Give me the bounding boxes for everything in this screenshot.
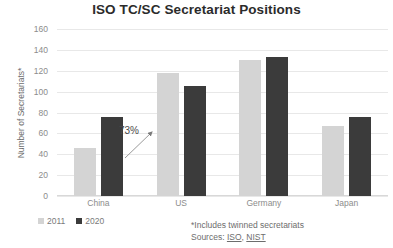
y-axis-tick-label: 20 [39,170,48,180]
y-axis-tick-label: 100 [34,87,48,97]
bar [184,86,206,196]
footnote-sources: Sources: ISO, NIST [191,231,304,243]
bar [349,117,371,196]
legend-item[interactable]: 2011 [38,216,65,226]
y-axis-tick-label: 140 [34,45,48,55]
legend-swatch [38,218,44,224]
bar [74,148,96,196]
bar-chart: ISO TC/SC Secretariat Positions Number o… [0,0,393,248]
x-axis-category-label: US [140,198,223,212]
x-axis-category-labels: ChinaUSGermanyJapan [57,198,388,212]
bar-group [223,29,306,196]
bar [239,60,261,196]
y-axis-tick-label: 80 [39,108,48,118]
bar-group [140,29,223,196]
chart-footnotes: *Includes twinned secretariats Sources: … [191,219,304,243]
x-axis-category-label: Japan [305,198,388,212]
y-axis-ticks: 160140120100806040200 [0,29,55,196]
legend-swatch [76,218,82,224]
y-axis-tick-label: 160 [34,24,48,34]
sources-prefix: Sources: [191,232,227,242]
bar [101,117,123,196]
legend-label: 2011 [47,216,65,226]
bar [157,73,179,196]
bar-groups [57,29,388,196]
footnote-twinned: *Includes twinned secretariats [191,219,304,231]
plot-area: 73% [57,29,388,196]
bar [266,57,288,196]
x-axis-category-label: China [57,198,140,212]
source-link-iso[interactable]: ISO [227,232,242,242]
chart-legend: 20112020 [38,216,104,226]
legend-label: 2020 [85,216,104,226]
chart-title: ISO TC/SC Secretariat Positions [0,2,393,17]
bar [322,126,344,196]
gridline [57,196,388,197]
x-axis-category-label: Germany [223,198,306,212]
bar-group [57,29,140,196]
y-axis-tick-label: 0 [43,191,48,201]
source-link-nist[interactable]: NIST [246,232,265,242]
y-axis-tick-label: 120 [34,66,48,76]
y-axis-tick-label: 40 [39,149,48,159]
y-axis-tick-label: 60 [39,128,48,138]
legend-item[interactable]: 2020 [76,216,104,226]
bar-group [305,29,388,196]
